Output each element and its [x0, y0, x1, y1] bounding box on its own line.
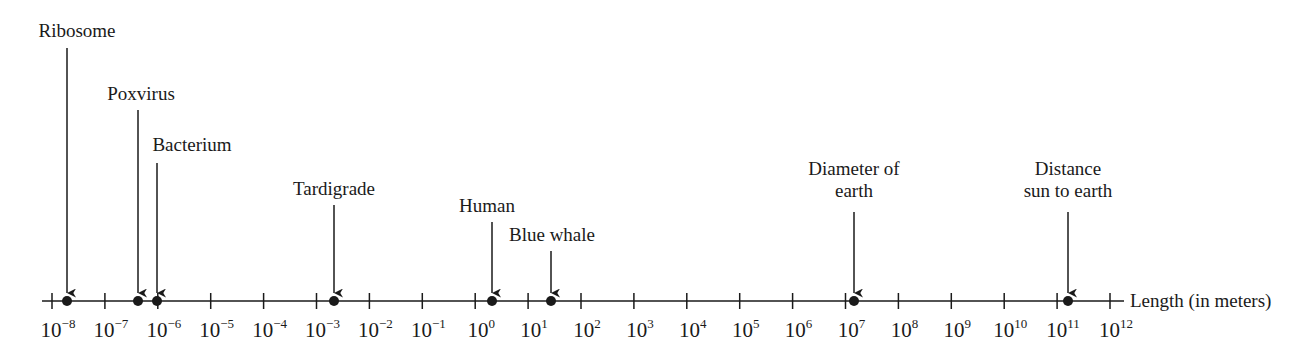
label-earth-diameter-line1: Diameter of	[808, 158, 899, 180]
tick-label-base: 10	[41, 318, 62, 342]
tick-label-base: 10	[993, 318, 1014, 342]
tick-label: 10−1	[411, 318, 446, 343]
tick-label-base: 10	[1046, 318, 1067, 342]
tick-label-exponent: 9	[965, 316, 972, 331]
label-earth-diameter-line2: earth	[808, 180, 899, 202]
tick-label-exponent: −4	[273, 316, 287, 331]
human-dot	[487, 296, 497, 306]
tick-label-base: 10	[891, 318, 912, 342]
tick-label-base: 10	[199, 318, 220, 342]
label-earth-diameter: Diameter of earth	[808, 158, 899, 202]
tick-label-base: 10	[93, 318, 114, 342]
tick-label: 103	[626, 318, 654, 343]
tick-label-exponent: 7	[859, 316, 866, 331]
tick-label: 10−2	[358, 318, 393, 343]
tardigrade-dot	[329, 296, 339, 306]
tick-label: 105	[732, 318, 760, 343]
tick-label-base: 10	[252, 318, 273, 342]
tick-label: 10−3	[305, 318, 340, 343]
tick-label-base: 10	[626, 318, 647, 342]
label-human: Human	[459, 195, 515, 217]
tick-label-exponent: 11	[1067, 316, 1080, 331]
tick-label: 10−6	[146, 318, 181, 343]
tick-label-base: 10	[1099, 318, 1120, 342]
ribosome-dot	[62, 296, 72, 306]
axis-title: Length (in meters)	[1130, 290, 1271, 312]
tick-label-exponent: −6	[167, 316, 181, 331]
label-bacterium: Bacterium	[152, 134, 231, 156]
tick-label-base: 10	[944, 318, 965, 342]
marker-arrows	[67, 48, 1068, 293]
sun-earth-dot	[1063, 296, 1073, 306]
tick-label: 104	[679, 318, 707, 343]
axis-ticks	[52, 293, 1110, 309]
label-tardigrade: Tardigrade	[293, 178, 375, 200]
tick-label: 101	[520, 318, 548, 343]
label-blue-whale: Blue whale	[509, 224, 595, 246]
tick-label-base: 10	[358, 318, 379, 342]
tick-label: 102	[573, 318, 601, 343]
blue-whale-dot	[546, 296, 556, 306]
tick-label-base: 10	[411, 318, 432, 342]
tick-label-exponent: 3	[647, 316, 654, 331]
tick-label-base: 10	[679, 318, 700, 342]
label-sun-earth: Distance sun to earth	[1024, 158, 1113, 202]
tick-label-exponent: −1	[432, 316, 446, 331]
label-poxvirus: Poxvirus	[107, 83, 175, 105]
label-sun-earth-line2: sun to earth	[1024, 180, 1113, 202]
tick-label-exponent: −3	[326, 316, 340, 331]
tick-label: 1011	[1046, 318, 1080, 343]
tick-label-exponent: −2	[379, 316, 393, 331]
label-ribosome: Ribosome	[38, 20, 115, 42]
label-sun-earth-line1: Distance	[1024, 158, 1113, 180]
tick-label-base: 10	[467, 318, 488, 342]
tick-label-exponent: −5	[220, 316, 234, 331]
tick-label-exponent: 10	[1014, 316, 1027, 331]
tick-label-base: 10	[732, 318, 753, 342]
tick-label-exponent: −7	[114, 316, 128, 331]
tick-label-exponent: 8	[912, 316, 919, 331]
tick-label-base: 10	[520, 318, 541, 342]
tick-label-exponent: 4	[700, 316, 707, 331]
poxvirus-dot	[133, 296, 143, 306]
earth-diameter-dot	[849, 296, 859, 306]
tick-label-exponent: 5	[753, 316, 760, 331]
tick-label-exponent: 2	[594, 316, 601, 331]
tick-label: 10−8	[41, 318, 76, 343]
tick-label: 10−7	[93, 318, 128, 343]
tick-label-base: 10	[838, 318, 859, 342]
tick-label-exponent: −8	[62, 316, 76, 331]
tick-label-exponent: 1	[541, 316, 548, 331]
tick-label-exponent: 12	[1120, 316, 1133, 331]
tick-label-exponent: 0	[488, 316, 495, 331]
tick-label-base: 10	[785, 318, 806, 342]
tick-label-exponent: 6	[806, 316, 813, 331]
tick-label: 10−5	[199, 318, 234, 343]
tick-label-base: 10	[305, 318, 326, 342]
tick-label: 10−4	[252, 318, 287, 343]
tick-label: 1012	[1099, 318, 1133, 343]
tick-label: 1010	[993, 318, 1027, 343]
tick-label: 108	[891, 318, 919, 343]
tick-label-base: 10	[573, 318, 594, 342]
tick-label-base: 10	[146, 318, 167, 342]
bacterium-dot	[152, 296, 162, 306]
tick-label: 107	[838, 318, 866, 343]
tick-label: 106	[785, 318, 813, 343]
tick-label: 109	[944, 318, 972, 343]
tick-label: 100	[467, 318, 495, 343]
